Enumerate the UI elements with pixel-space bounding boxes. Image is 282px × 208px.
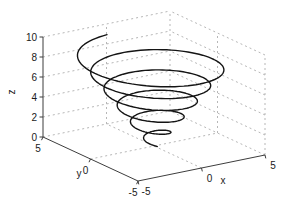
conical-helix-3d-plot: -505-5050246810xyz (0, 0, 282, 208)
z-tick-label: 2 (31, 112, 37, 123)
y-tick-mark (89, 159, 91, 162)
x-tick-label: 5 (270, 160, 276, 171)
z-tick-label: 8 (31, 52, 37, 63)
x-tick-label: -5 (142, 186, 151, 197)
y-tick-mark (137, 181, 138, 184)
x-tick-mark (265, 155, 266, 158)
z-tick-label: 6 (31, 72, 37, 83)
x-tick-label: 0 (207, 173, 213, 184)
z-tick-label: 10 (26, 32, 38, 43)
y-tick-label: 5 (35, 143, 41, 154)
helix-curve (78, 35, 224, 147)
y-axis-label: y (77, 168, 82, 179)
z-tick-label: 0 (31, 132, 37, 143)
z-axis-label: z (6, 90, 17, 95)
x-axis-label: x (221, 175, 226, 186)
figure: -505-5050246810xyz (0, 0, 282, 208)
y-tick-label: 0 (83, 165, 89, 176)
x-tick-mark (202, 168, 203, 171)
y-tick-label: -5 (129, 187, 138, 198)
z-tick-label: 4 (31, 92, 37, 103)
grid-line (170, 11, 265, 55)
